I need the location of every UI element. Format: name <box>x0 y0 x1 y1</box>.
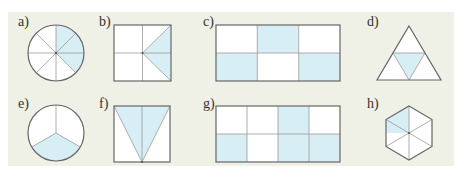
figure-a-circle-eighths <box>28 25 84 81</box>
figure-c-rectangle-grid <box>216 25 340 81</box>
figure-d-triangle <box>377 26 441 80</box>
figure-f-square <box>114 106 170 163</box>
fraction-figures <box>0 0 465 179</box>
figure-b-square <box>114 25 171 81</box>
figure-e-circle-thirds <box>28 105 84 161</box>
figure-h-hexagon <box>386 106 432 160</box>
figure-g-rectangle-grid <box>216 106 340 162</box>
